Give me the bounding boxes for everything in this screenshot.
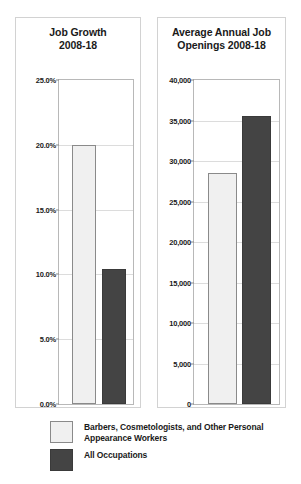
y-axis-tick-mark: [56, 80, 59, 81]
y-axis-tick-label: 0: [187, 400, 191, 409]
plot-area-job-openings: 05,00010,00015,00020,00025,00030,00035,0…: [193, 79, 280, 405]
bar-barbers: [72, 145, 96, 404]
y-axis-tick-label: 10.0%: [36, 270, 56, 279]
y-axis-tick-mark: [191, 282, 194, 283]
y-axis-tick-label: 40,000: [169, 76, 191, 85]
light-swatch-icon: [50, 421, 73, 443]
y-axis-tick-label: 15.0%: [36, 205, 56, 214]
y-axis-tick-mark: [191, 242, 194, 243]
plot-area-job-growth: 0.0%5.0%10.0%15.0%20.0%25.0%: [58, 79, 134, 405]
y-axis-tick-label: 20.0%: [36, 140, 56, 149]
y-axis-tick-mark: [191, 80, 194, 81]
chart-title-job-openings: Average Annual Job Openings 2008-18: [162, 26, 281, 52]
y-axis-tick-label: 30,000: [169, 157, 191, 166]
bar-all-occupations: [102, 269, 126, 404]
legend-item-all-occupations: All Occupations: [50, 449, 290, 471]
y-axis-tick-mark: [191, 363, 194, 364]
y-axis-tick-mark: [191, 201, 194, 202]
gridline: [59, 145, 133, 146]
y-axis-tick-mark: [191, 161, 194, 162]
y-axis-tick-mark: [191, 404, 194, 405]
dark-swatch-icon: [50, 449, 73, 471]
y-axis-tick-label: 0.0%: [40, 400, 56, 409]
chart-legend: Barbers, Cosmetologists, and Other Perso…: [50, 421, 290, 476]
chart-title-line-2: 2008-18: [20, 39, 136, 52]
chart-panel-job-openings: Average Annual Job Openings 2008-18 05,0…: [157, 17, 286, 408]
legend-label-barbers: Barbers, Cosmetologists, and Other Perso…: [84, 421, 290, 444]
y-axis-tick-mark: [56, 209, 59, 210]
y-axis-tick-label: 25.0%: [36, 76, 56, 85]
bar-all-occupations: [242, 116, 271, 404]
y-axis-tick-label: 25,000: [169, 197, 191, 206]
legend-item-barbers: Barbers, Cosmetologists, and Other Perso…: [50, 421, 290, 444]
y-axis-tick-label: 20,000: [169, 238, 191, 247]
legend-label-all-occupations: All Occupations: [84, 449, 147, 461]
chart-title-line-1: Job Growth: [20, 26, 136, 39]
chart-panel-job-growth: Job Growth 2008-18 0.0%5.0%10.0%15.0%20.…: [15, 17, 141, 408]
y-axis-tick-mark: [56, 144, 59, 145]
y-axis-tick-mark: [56, 339, 59, 340]
y-axis-tick-mark: [56, 404, 59, 405]
y-axis-tick-label: 5,000: [173, 359, 191, 368]
y-axis-tick-label: 5.0%: [40, 335, 56, 344]
y-axis-tick-mark: [56, 274, 59, 275]
y-axis-tick-mark: [191, 323, 194, 324]
bar-barbers: [208, 173, 237, 404]
y-axis-tick-label: 35,000: [169, 116, 191, 125]
y-axis-tick-label: 15,000: [169, 278, 191, 287]
chart-title-line-1: Average Annual Job: [162, 26, 281, 39]
chart-title-job-growth: Job Growth 2008-18: [20, 26, 136, 52]
y-axis-tick-label: 10,000: [169, 319, 191, 328]
gridline: [59, 210, 133, 211]
y-axis-tick-mark: [191, 120, 194, 121]
chart-title-line-2: Openings 2008-18: [162, 39, 281, 52]
